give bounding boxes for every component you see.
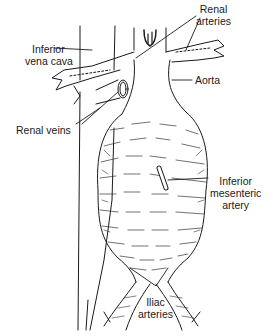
label-renal-arteries: Renal arteries xyxy=(196,3,231,27)
label-renal-arteries-line2: arteries xyxy=(196,15,231,27)
label-iliac-line1: Iliac xyxy=(138,296,173,308)
label-iliac-line2: arteries xyxy=(138,308,173,320)
vena-cava-shape xyxy=(78,26,115,330)
label-aorta: Aorta xyxy=(195,74,220,86)
label-ima-line2: mesenteric xyxy=(210,187,261,199)
aorta-neck-shape xyxy=(122,60,186,114)
label-ima-line3: artery xyxy=(210,199,261,211)
label-ivc-line1: Inferior xyxy=(25,43,73,55)
label-ivc-line2: vena cava xyxy=(25,55,73,67)
mesenteric-artery-shape xyxy=(159,168,166,188)
label-inferior-vena-cava: Inferior vena cava xyxy=(25,43,73,67)
label-renal-arteries-line1: Renal xyxy=(196,3,231,15)
label-iliac-arteries: Iliac arteries xyxy=(138,296,173,320)
renal-vein-shape xyxy=(74,80,128,104)
label-renal-veins: Renal veins xyxy=(16,124,71,136)
label-inferior-mesenteric-artery: Inferior mesenteric artery xyxy=(210,175,261,211)
label-ima-line1: Inferior xyxy=(210,175,261,187)
leader-lines xyxy=(54,16,208,286)
